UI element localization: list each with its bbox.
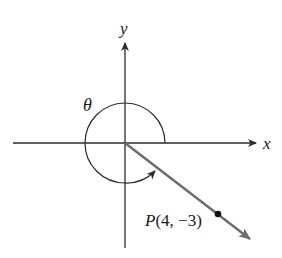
- point-p: [215, 211, 222, 218]
- point-label: P(4, −3): [144, 211, 202, 230]
- coordinate-diagram: y x θ P(4, −3): [0, 0, 282, 258]
- theta-label: θ: [83, 95, 92, 115]
- point-name: P: [144, 211, 155, 230]
- x-axis-label: x: [262, 134, 271, 153]
- point-coords: (4, −3): [155, 211, 201, 230]
- y-axis-label: y: [118, 19, 128, 38]
